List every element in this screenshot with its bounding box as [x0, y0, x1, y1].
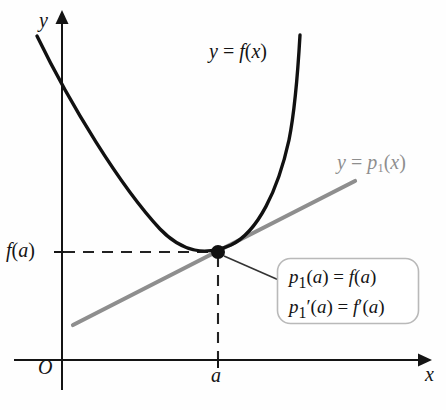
tangency-point-dot: [211, 245, 225, 259]
tangent-line-label: y = p1(x): [337, 152, 406, 175]
linear-approximation-figure: y x O f(a) a y = f(x) y = p1(x) p1(a) = …: [0, 0, 446, 410]
origin-label: O: [38, 357, 52, 377]
x-axis-label: x: [425, 364, 434, 384]
callout-equations: p1(a) = f(a) p1′(a) = f′(a): [289, 262, 385, 322]
callout-equation-value: p1(a) = f(a): [289, 262, 385, 292]
y-axis-label: y: [39, 10, 48, 30]
callout-equation-derivative: p1′(a) = f′(a): [289, 292, 385, 322]
x-tick-label-a: a: [211, 365, 221, 385]
function-curve-f: [37, 35, 300, 251]
y-tick-label-fa: f(a): [6, 240, 35, 260]
y-axis-arrowhead: [56, 10, 69, 24]
function-curve-label: y = f(x): [209, 41, 267, 61]
callout-leader-line: [224, 256, 281, 281]
